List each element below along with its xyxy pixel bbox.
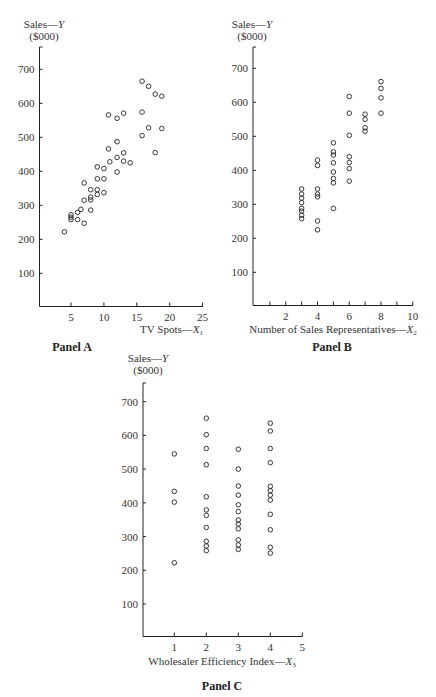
x-tick-label: 20 (164, 311, 176, 323)
y-tick-label: 600 (18, 97, 35, 109)
data-point (108, 160, 113, 165)
data-point (268, 421, 273, 426)
data-point (82, 221, 87, 226)
data-point (82, 198, 87, 203)
data-point (88, 187, 93, 192)
data-point (160, 126, 165, 131)
data-point (153, 150, 158, 155)
data-point (268, 429, 273, 434)
data-point (106, 147, 111, 152)
y-axis-unit-label: ($000) (237, 30, 267, 43)
data-point (102, 190, 107, 195)
x-tick-label: 5 (68, 311, 74, 323)
data-point (347, 160, 352, 165)
data-point (62, 230, 67, 235)
y-tick-label: 700 (18, 63, 35, 75)
data-point (268, 545, 273, 550)
data-point (128, 161, 133, 166)
y-tick-label: 700 (122, 396, 139, 408)
y-tick-label: 500 (232, 130, 249, 142)
data-point (236, 538, 241, 543)
data-point (115, 170, 120, 175)
data-point (88, 208, 93, 213)
data-point (347, 179, 352, 184)
data-point (315, 228, 320, 233)
data-point (236, 503, 241, 508)
data-point (160, 94, 165, 99)
panel-title: Panel A (52, 340, 92, 354)
data-point (204, 525, 209, 530)
data-point (204, 544, 209, 549)
data-point (88, 198, 93, 203)
data-point (363, 117, 368, 122)
y-tick-label: 200 (18, 233, 35, 245)
y-tick-label: 300 (232, 198, 249, 210)
data-point (379, 79, 384, 84)
data-point (204, 548, 209, 553)
panel-c: 10020030040050060070012345Sales—Y($000)W… (122, 352, 306, 693)
data-point (331, 141, 336, 146)
data-point (95, 187, 100, 192)
data-point (379, 111, 384, 116)
data-point (236, 543, 241, 548)
y-tick-label: 600 (232, 96, 249, 108)
y-tick-label: 100 (122, 598, 139, 610)
data-point (268, 512, 273, 517)
data-point (331, 161, 336, 166)
data-point (331, 170, 336, 175)
data-point (268, 551, 273, 556)
data-point (204, 416, 209, 421)
data-point (146, 84, 151, 89)
y-tick-label: 300 (18, 199, 35, 211)
data-point (204, 446, 209, 451)
data-point (121, 159, 126, 164)
data-point (102, 166, 107, 171)
data-point (172, 500, 177, 505)
data-point (331, 206, 336, 211)
data-point (95, 192, 100, 197)
data-point (204, 495, 209, 500)
data-point (268, 493, 273, 498)
data-point (315, 219, 320, 224)
data-point (299, 200, 304, 205)
x-tick-label: 4 (268, 641, 274, 653)
data-point (299, 187, 304, 192)
x-tick-label: 1 (172, 641, 178, 653)
y-tick-label: 700 (232, 62, 249, 74)
data-point (379, 96, 384, 101)
data-point (268, 498, 273, 503)
data-point (268, 446, 273, 451)
data-point (236, 509, 241, 514)
y-axis-unit-label: ($000) (133, 364, 163, 377)
x-tick-label: 15 (131, 311, 143, 323)
y-axis-unit-label: ($000) (29, 30, 59, 43)
y-tick-label: 100 (232, 266, 249, 278)
data-point (146, 126, 151, 131)
data-point (115, 139, 120, 144)
data-point (204, 539, 209, 544)
y-tick-label: 200 (122, 564, 139, 576)
x-tick-label: 10 (407, 310, 419, 322)
x-axis-label: Number of Sales Representatives—X2 (249, 323, 417, 337)
data-point (204, 508, 209, 513)
x-tick-label: 2 (283, 310, 289, 322)
data-point (268, 460, 273, 465)
data-point (268, 484, 273, 489)
x-tick-label: 25 (197, 311, 209, 323)
scatter-plot-figure: 100200300400500600700510152025Sales—Y($0… (0, 0, 436, 697)
data-point (315, 187, 320, 192)
x-tick-label: 2 (204, 641, 210, 653)
data-point (236, 467, 241, 472)
data-point (299, 216, 304, 221)
data-point (204, 432, 209, 437)
data-point (79, 207, 84, 212)
x-tick-label: 5 (300, 641, 306, 653)
data-point (106, 113, 111, 118)
data-point (95, 165, 100, 170)
data-point (331, 176, 336, 181)
data-point (347, 94, 352, 99)
x-axis-label: TV Spots—X1 (140, 323, 203, 337)
data-point (315, 163, 320, 168)
x-tick-label: 3 (236, 641, 242, 653)
data-point (347, 154, 352, 159)
